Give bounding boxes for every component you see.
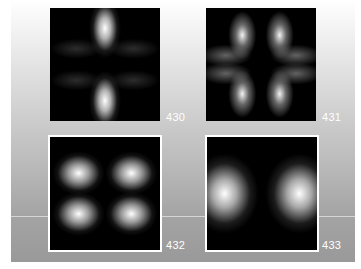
panel-label-431: 431 — [322, 111, 341, 123]
pattern-image-430 — [50, 8, 160, 121]
intensity-pattern-430 — [50, 8, 160, 121]
pattern-image-433 — [207, 137, 317, 250]
pattern-image-431 — [206, 8, 316, 121]
intensity-pattern-431 — [206, 8, 316, 121]
panel-label-432: 432 — [166, 239, 185, 251]
panel-label-433: 433 — [322, 239, 341, 251]
intensity-pattern-432 — [48, 135, 162, 252]
pattern-image-432 — [50, 137, 160, 250]
panel-label-430: 430 — [166, 111, 185, 123]
intensity-pattern-433 — [205, 135, 319, 252]
